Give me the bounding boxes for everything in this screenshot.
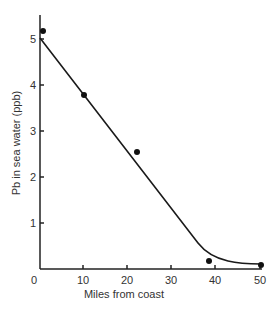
x-tick-label: 40 bbox=[209, 274, 221, 286]
data-point bbox=[81, 92, 87, 98]
y-tick-label: 1 bbox=[30, 217, 36, 229]
x-tick-label: 50 bbox=[254, 274, 266, 286]
fit-curve bbox=[40, 38, 261, 264]
chart: 0 10 20 30 40 50 1 2 3 4 5 Miles from co… bbox=[0, 0, 277, 310]
y-tick-label: 5 bbox=[30, 33, 36, 45]
y-axis-title: Pb in sea water (ppb) bbox=[10, 91, 22, 196]
data-point bbox=[258, 262, 264, 268]
x-tick-label: 10 bbox=[77, 274, 89, 286]
data-point bbox=[40, 28, 46, 34]
y-tick-label: 4 bbox=[30, 79, 36, 91]
data-point bbox=[206, 258, 212, 264]
data-points bbox=[40, 28, 264, 268]
y-tick-label: 2 bbox=[30, 171, 36, 183]
data-point bbox=[134, 149, 140, 155]
x-axis-title: Miles from coast bbox=[84, 288, 164, 300]
y-tick-label: 3 bbox=[30, 125, 36, 137]
x-tick-label: 20 bbox=[121, 274, 133, 286]
x-tick-label: 30 bbox=[165, 274, 177, 286]
x-tick-label: 0 bbox=[31, 274, 37, 286]
